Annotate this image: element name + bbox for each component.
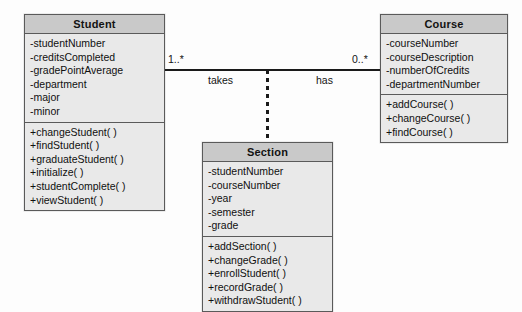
attribute-item: -year [203,192,332,206]
operation-item: +initialize( ) [25,166,164,180]
attribute-item: -courseDescription [381,51,507,65]
attribute-item: -minor [25,105,164,119]
attribute-item: -major [25,91,164,105]
attribute-item: -grade [203,219,332,233]
attribute-item: -creditsCompleted [25,51,164,65]
operation-item: +graduateStudent( ) [25,153,164,167]
association-line-student-course[interactable] [165,69,380,71]
operation-item: +viewStudent( ) [25,194,164,208]
class-box-student[interactable]: Student -studentNumber -creditsCompleted… [24,14,165,211]
multiplicity-student-end: 1..* [168,53,184,65]
operation-item: +changeGrade( ) [203,254,332,268]
operations-compartment-section: +addSection( ) +changeGrade( ) +enrollSt… [203,236,332,311]
operation-item: +withdrawStudent( ) [203,294,332,308]
operation-item: +findCourse( ) [381,126,507,140]
attribute-item: -gradePointAverage [25,64,164,78]
attribute-item: -numberOfCredits [381,64,507,78]
association-role-takes: takes [208,74,233,86]
attribute-item: -courseNumber [381,37,507,51]
attributes-compartment-section: -studentNumber -courseNumber -year -seme… [203,162,332,236]
operation-item: +addCourse( ) [381,98,507,112]
attribute-item: -courseNumber [203,179,332,193]
operation-item: +addSection( ) [203,240,332,254]
association-class-dashed-link [266,70,269,142]
class-name-student: Student [25,15,164,34]
attribute-item: -semester [203,206,332,220]
operation-item: +findStudent( ) [25,139,164,153]
multiplicity-course-end: 0..* [352,53,368,65]
operation-item: +changeCourse( ) [381,112,507,126]
class-name-course: Course [381,15,507,34]
class-name-section: Section [203,143,332,162]
attribute-item: -departmentNumber [381,78,507,92]
attributes-compartment-course: -courseNumber -courseDescription -number… [381,34,507,94]
attribute-item: -studentNumber [25,37,164,51]
class-box-section[interactable]: Section -studentNumber -courseNumber -ye… [202,142,333,312]
attribute-item: -studentNumber [203,165,332,179]
association-role-has: has [316,74,333,86]
class-box-course[interactable]: Course -courseNumber -courseDescription … [380,14,508,143]
operation-item: +changeStudent( ) [25,126,164,140]
attributes-compartment-student: -studentNumber -creditsCompleted -gradeP… [25,34,164,122]
operation-item: +studentComplete( ) [25,180,164,194]
operations-compartment-course: +addCourse( ) +changeCourse( ) +findCour… [381,94,507,142]
attribute-item: -department [25,78,164,92]
operation-item: +enrollStudent( ) [203,267,332,281]
operation-item: +recordGrade( ) [203,281,332,295]
operations-compartment-student: +changeStudent( ) +findStudent( ) +gradu… [25,122,164,211]
